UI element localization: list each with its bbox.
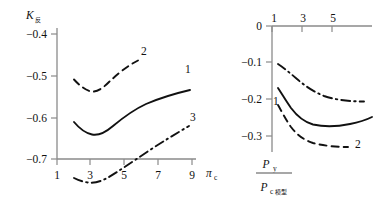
right-xticklabel-2: 5	[330, 12, 336, 24]
right-curve-label-1: 1	[273, 95, 279, 107]
left-curve-label-2: 2	[141, 45, 147, 57]
figure-root: −0.4 −0.5 −0.6 −0.7 1 3 5 7 9 K 反 π c	[0, 0, 377, 208]
left-yticklabel-3: −0.7	[26, 153, 47, 165]
right-y-axis-label-denominator: P	[259, 181, 267, 193]
left-xticklabel-1: 3	[87, 169, 93, 181]
left-curve-label-1: 1	[185, 63, 191, 75]
right-y-axis-label-denominator-sub: c	[270, 187, 274, 196]
left-x-axis-label-sub: c	[214, 173, 218, 182]
left-xticklabel-4: 9	[189, 169, 195, 181]
right-yticklabel-2: −0.2	[241, 93, 262, 105]
left-xticklabel-0: 1	[54, 169, 60, 181]
right-yticklabel-0: 0	[256, 20, 262, 32]
right-curve-3	[278, 64, 364, 102]
right-y-axis-label-numerator: P	[261, 158, 269, 170]
left-x-axis-label-main: π	[206, 167, 213, 179]
left-curve-label-3: 3	[190, 111, 196, 123]
left-yticklabel-0: −0.4	[26, 28, 47, 40]
left-x-axis-label: π c	[206, 167, 218, 182]
right-curve-label-2: 2	[355, 138, 361, 150]
right-yticklabel-1: −0.1	[241, 56, 262, 68]
left-y-axis-label: K 反	[25, 9, 41, 24]
left-y-axis-label-main: K	[25, 9, 35, 21]
right-xticklabel-0: 1	[271, 12, 277, 24]
right-y-axis-label-denominator-sub-cjk: 模型	[275, 188, 287, 196]
left-yticklabel-2: −0.6	[26, 112, 47, 124]
right-y-axis-label: P y P c 模型	[256, 158, 292, 196]
left-curve-2	[74, 61, 138, 92]
left-yticklabel-1: −0.5	[26, 70, 47, 82]
right-y-axis-label-numerator-sub: y	[273, 164, 277, 173]
right-xticklabel-1: 3	[300, 12, 306, 24]
left-y-axis-label-sub: 反	[35, 16, 41, 24]
right-yticklabel-3: −0.3	[241, 130, 262, 142]
left-plot: −0.4 −0.5 −0.6 −0.7 1 3 5 7 9 K 反 π c	[25, 9, 218, 183]
right-curve-1	[278, 88, 372, 126]
left-xticklabel-3: 7	[155, 169, 161, 181]
figure-svg: −0.4 −0.5 −0.6 −0.7 1 3 5 7 9 K 反 π c	[0, 0, 377, 208]
right-plot: 1 3 5 0 −0.1 −0.2 −0.3 P y P c 模型 1	[241, 12, 372, 196]
left-xticklabel-2: 5	[121, 169, 127, 181]
left-curve-1	[74, 90, 190, 135]
